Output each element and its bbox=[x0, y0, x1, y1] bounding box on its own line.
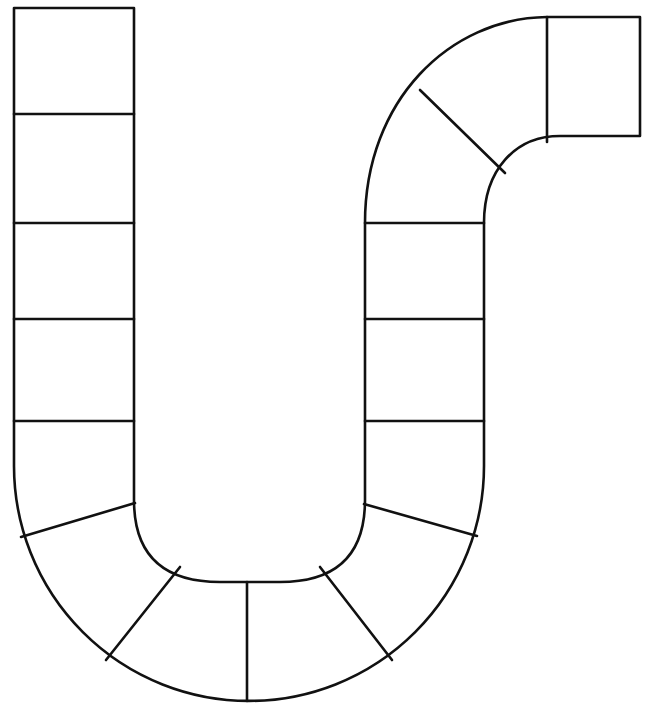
divider bbox=[320, 567, 392, 660]
divider bbox=[420, 90, 505, 173]
path-outline bbox=[14, 8, 640, 701]
divider bbox=[21, 503, 135, 537]
game-board-path bbox=[0, 0, 657, 713]
divider bbox=[364, 504, 477, 536]
divider bbox=[106, 567, 180, 660]
